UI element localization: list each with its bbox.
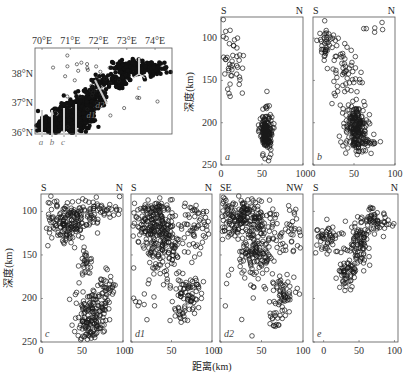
map-y-tick: 36°N [12, 127, 33, 138]
map-profile-label: d2 [96, 100, 106, 110]
x-tick-label: 100 [296, 168, 311, 179]
x-tick-label: 50 [167, 345, 177, 356]
x-tick-label: 100 [388, 168, 403, 179]
x-tick-label: 0 [311, 168, 316, 179]
x-tick-label: 50 [257, 168, 267, 179]
y-tick-label: 250 [202, 159, 217, 170]
direction-right: N [391, 182, 398, 193]
map-y-tick: 37°N [12, 97, 33, 108]
direction-right: NW [286, 182, 303, 193]
y-axis-label-bottom: 深度(km) [2, 248, 15, 287]
x-axis-label: 距离(km) [192, 360, 231, 373]
direction-right: N [296, 5, 303, 16]
map-x-tick: 73°E [117, 35, 137, 46]
figure-canvas: 70°E71°E72°E73°E74°E36°N37°N38°N abcd1d2… [0, 0, 407, 381]
y-axis-label-top: 深度(km) [183, 72, 196, 111]
scatter-points [131, 196, 211, 325]
map-scatter-points [34, 54, 173, 135]
map-y-tick: 38°N [12, 68, 33, 79]
map-profile-label: b [50, 137, 55, 147]
direction-left: S [313, 182, 319, 193]
y-tick-label: 200 [202, 117, 217, 128]
profile-panel-c: SNc050100100150200250 [22, 182, 131, 356]
x-tick-label: 100 [296, 345, 311, 356]
x-tick-label: 100 [387, 345, 402, 356]
profile-panel-a: SNa050100100150200250 [202, 5, 311, 179]
scatter-points [313, 205, 396, 293]
profile-panel-b: SNb050100 [311, 5, 403, 179]
map-profile-label: e [137, 82, 141, 92]
y-tick-label: 150 [22, 249, 37, 260]
panel-label: b [317, 151, 322, 162]
direction-right: N [116, 182, 123, 193]
x-tick-label: 0 [219, 168, 224, 179]
x-tick-label: 50 [257, 345, 267, 356]
scatter-points [315, 18, 385, 156]
x-tick-label: 0 [218, 345, 223, 356]
epicenter-map: 70°E71°E72°E73°E74°E36°N37°N38°N abcd1d2… [12, 35, 173, 147]
x-tick-label: 0 [39, 345, 44, 356]
direction-left: SE [220, 182, 232, 193]
map-profile-label: d1 [87, 110, 96, 120]
panel-label: a [225, 151, 230, 162]
panel-label: d1 [135, 328, 145, 339]
panel-label: d2 [224, 328, 234, 339]
map-x-tick: 70°E [32, 35, 52, 46]
map-profile-label: a [39, 137, 44, 147]
profile-panel-d2: SENWd2050100 [218, 182, 311, 356]
profile-panel-d1: SNd1050100 [129, 182, 220, 356]
map-x-tick: 71°E [60, 35, 80, 46]
scatter-points [44, 194, 122, 342]
direction-right: N [205, 182, 212, 193]
y-tick-label: 250 [22, 336, 37, 347]
scatter-points [220, 194, 303, 338]
x-tick-label: 0 [321, 345, 326, 356]
direction-right: N [388, 5, 395, 16]
y-tick-label: 100 [22, 205, 37, 216]
direction-left: S [131, 182, 137, 193]
y-tick-label: 100 [202, 32, 217, 43]
panel-label: c [45, 328, 50, 339]
map-x-tick: 72°E [89, 35, 109, 46]
y-tick-label: 200 [22, 292, 37, 303]
profile-panel-e: SNe050100 [313, 182, 402, 356]
x-tick-label: 0 [129, 345, 134, 356]
map-x-tick: 74°E [145, 35, 165, 46]
panel-label: e [317, 328, 322, 339]
x-tick-label: 50 [77, 345, 87, 356]
y-tick-label: 150 [202, 74, 217, 85]
direction-left: S [41, 182, 47, 193]
x-tick-label: 50 [349, 168, 359, 179]
map-profile-label: c [61, 137, 65, 147]
direction-left: S [313, 5, 319, 16]
scatter-points [221, 17, 276, 163]
x-tick-label: 50 [354, 345, 364, 356]
direction-left: S [221, 5, 227, 16]
